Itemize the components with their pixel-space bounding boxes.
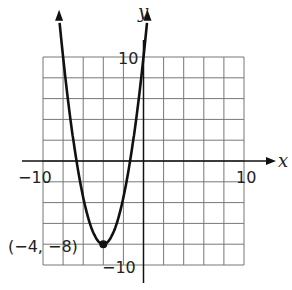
arrow-heads: [55, 10, 276, 165]
vertex-point: [99, 240, 107, 248]
x-min-label: −10: [18, 168, 52, 187]
vertex-label: (−4, −8): [8, 237, 78, 256]
y-axis-label: y: [137, 1, 149, 22]
x-max-label: 10: [236, 168, 256, 187]
chart: −10 10 10 −10 (−4, −8) x y: [0, 0, 292, 290]
x-axis-label: x: [278, 150, 288, 171]
y-max-label: 10: [118, 49, 138, 68]
y-min-label: −10: [102, 258, 136, 277]
